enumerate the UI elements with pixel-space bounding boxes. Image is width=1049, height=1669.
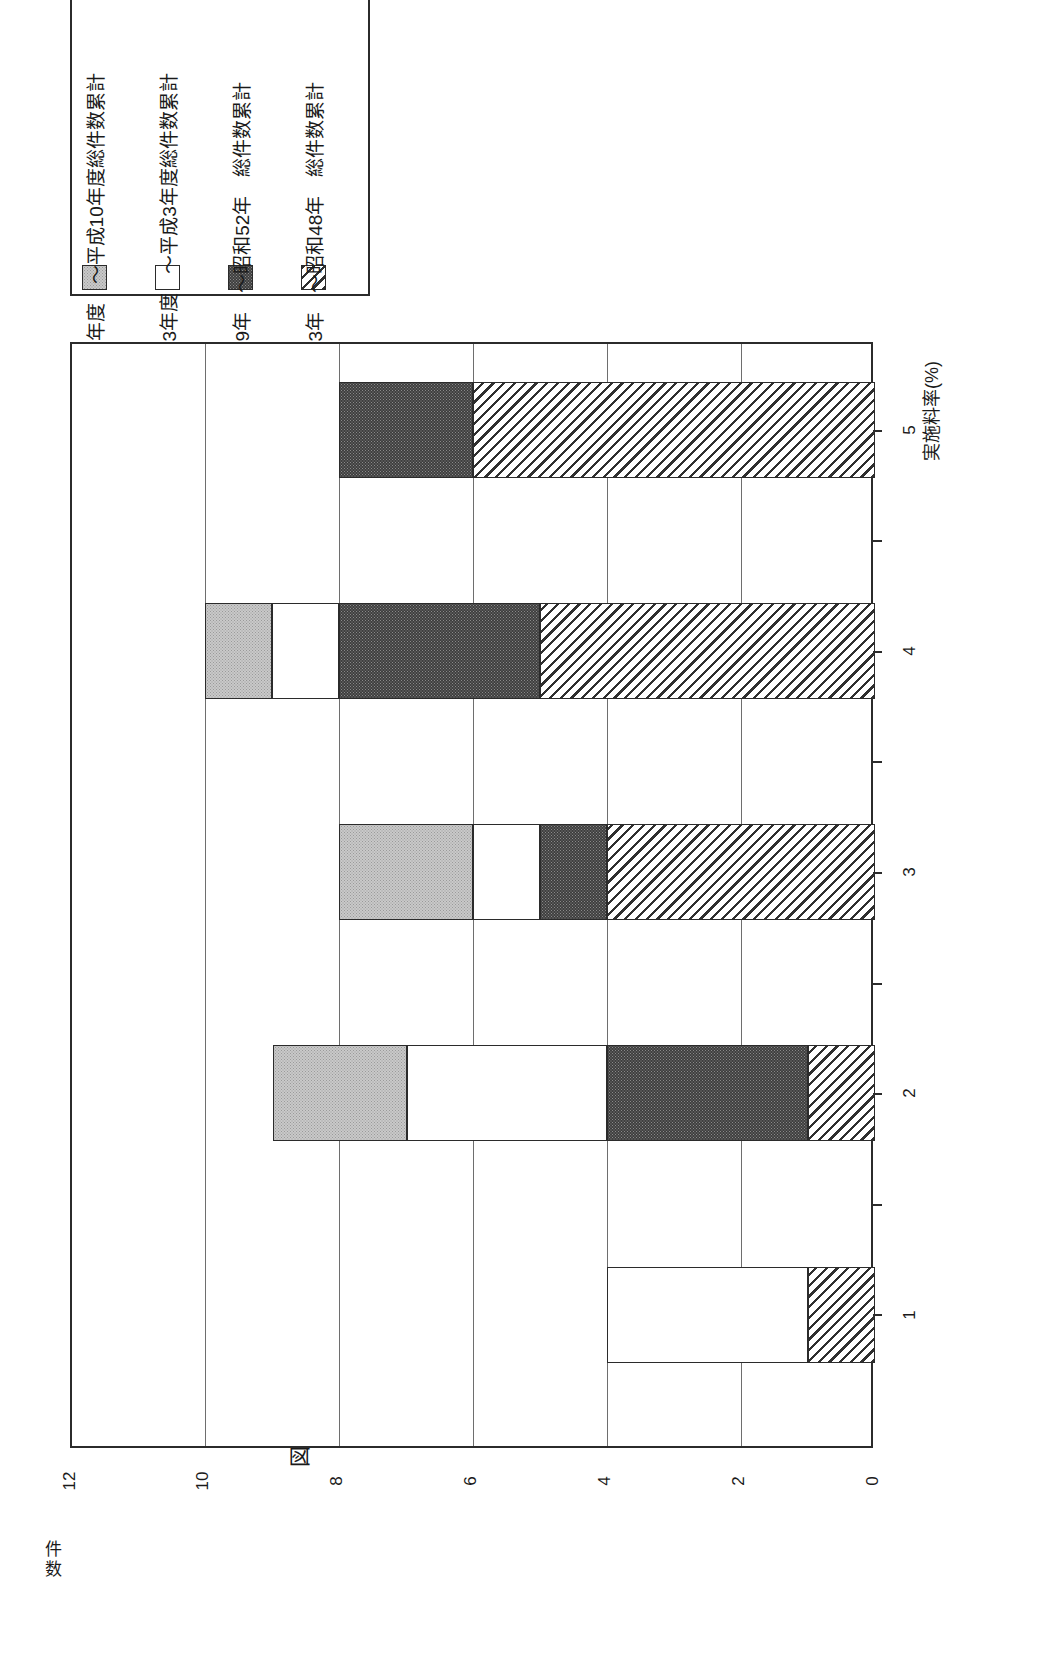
plot-area bbox=[70, 342, 873, 1448]
category-tickmark bbox=[873, 540, 882, 542]
bar-segment-s43[interactable] bbox=[607, 824, 875, 920]
bar-segment-hei4[interactable] bbox=[205, 603, 272, 699]
category-tickmark bbox=[873, 651, 882, 653]
category-tickmark bbox=[873, 983, 882, 985]
bar-segment-s49[interactable] bbox=[540, 824, 607, 920]
value-tick-2: 2 bbox=[728, 1458, 750, 1504]
value-tick-4: 4 bbox=[594, 1458, 616, 1504]
value-tick-12: 12 bbox=[59, 1458, 81, 1504]
category-tick-4: 4 bbox=[899, 631, 921, 671]
bar-segment-s49[interactable] bbox=[607, 1045, 808, 1141]
bar-segment-s49[interactable] bbox=[339, 382, 473, 478]
bar-segment-s63[interactable] bbox=[473, 824, 540, 920]
bar-group-cat-1 bbox=[72, 1267, 875, 1363]
value-tick-10: 10 bbox=[192, 1458, 214, 1504]
category-tickmark bbox=[873, 1314, 882, 1316]
bar-segment-s43[interactable] bbox=[808, 1045, 875, 1141]
bar-segment-s49[interactable] bbox=[339, 603, 540, 699]
bar-group-cat-3 bbox=[72, 824, 875, 920]
bar-segment-s63[interactable] bbox=[272, 603, 339, 699]
value-axis-label: 件 数 bbox=[38, 1540, 68, 1580]
category-tick-2: 2 bbox=[899, 1073, 921, 1113]
bar-segment-s43[interactable] bbox=[540, 603, 875, 699]
value-tick-8: 8 bbox=[326, 1458, 348, 1504]
category-tick-1: 1 bbox=[899, 1295, 921, 1335]
value-tick-0: 0 bbox=[862, 1458, 884, 1504]
category-tick-5: 5 bbox=[899, 410, 921, 450]
legend-item-s43[interactable]: 昭和43年 ～昭和48年 総件数累計 bbox=[295, 0, 333, 298]
bar-segment-s43[interactable] bbox=[473, 382, 875, 478]
category-tickmark bbox=[873, 872, 882, 874]
bar-group-cat-2 bbox=[72, 1045, 875, 1141]
category-tick-3: 3 bbox=[899, 852, 921, 892]
chart-legend: 平成4年度 ～平成10年度総件数累計 昭和63年度 ～平成3年度総件数累計 昭和… bbox=[70, 0, 370, 296]
value-axis-label-char: 数 bbox=[38, 1560, 68, 1580]
category-tickmark bbox=[873, 430, 882, 432]
legend-item-hei4[interactable]: 平成4年度 ～平成10年度総件数累計 bbox=[76, 0, 114, 298]
bar-segment-hei4[interactable] bbox=[339, 824, 473, 920]
value-tick-6: 6 bbox=[460, 1458, 482, 1504]
category-axis-label: 実施料率(%) bbox=[919, 331, 945, 491]
bar-segment-s63[interactable] bbox=[607, 1267, 808, 1363]
legend-item-s63[interactable]: 昭和63年度 ～平成3年度総件数累計 bbox=[149, 0, 187, 298]
bar-segment-s63[interactable] bbox=[407, 1045, 607, 1141]
legend-item-s49[interactable]: 昭和49年 ～昭和52年 総件数累計 bbox=[222, 0, 260, 298]
category-tickmark bbox=[873, 1204, 882, 1206]
figure-stage: 図 2 －18－ 1 民生用電気機械・電球・照明器具(イニシャル 有)の実施料率… bbox=[0, 0, 1049, 1669]
bar-segment-s43[interactable] bbox=[808, 1267, 875, 1363]
value-axis-label-char: 件 bbox=[38, 1540, 68, 1560]
bar-group-cat-4 bbox=[72, 603, 875, 699]
category-tickmark bbox=[873, 1093, 882, 1095]
category-tickmark bbox=[873, 761, 882, 763]
bar-group-cat-5 bbox=[72, 382, 875, 478]
bar-segment-hei4[interactable] bbox=[273, 1045, 407, 1141]
